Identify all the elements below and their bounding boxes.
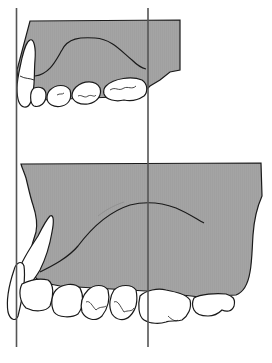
- lower-tooth-2: [52, 284, 83, 316]
- lower-jaw: [7, 163, 262, 323]
- lower-molar-2: [193, 294, 235, 316]
- lower-tooth-4: [110, 286, 137, 320]
- lower-tooth-1: [20, 279, 53, 311]
- lower-tooth-3: [81, 286, 109, 320]
- lower-molar-1: [139, 289, 191, 323]
- jaw-diagram: [0, 0, 272, 363]
- upper-tooth-1: [31, 87, 46, 106]
- jaw-diagram-svg: [0, 0, 272, 363]
- upper-jaw: [17, 20, 180, 107]
- lower-jaw-bone: [21, 163, 262, 297]
